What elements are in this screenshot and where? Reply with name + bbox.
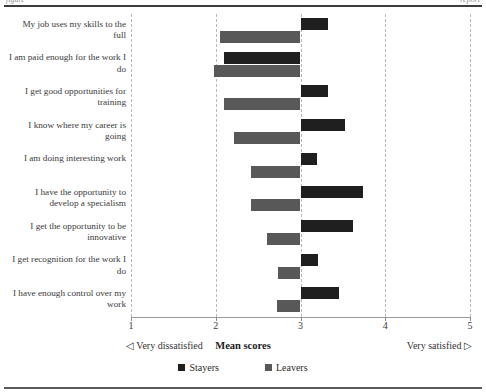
bar-leavers-2 [224, 98, 300, 110]
category-label: I get the opportunity to be innovative [8, 221, 126, 244]
axis-caption-row: ◁ Very dissatisfied Mean scores Very sat… [0, 340, 486, 354]
x-tick-label-4: 4 [383, 320, 388, 331]
bar-stayers-2 [301, 85, 328, 97]
bar-leavers-7 [278, 267, 301, 279]
chart-figure: figure report My job uses my skills to t… [0, 0, 486, 392]
gridline-2 [216, 14, 218, 317]
x-tick-label-1: 1 [129, 320, 134, 331]
square-swatch-icon [265, 364, 272, 371]
top-divider [4, 5, 482, 7]
gridline-4 [385, 14, 387, 317]
category-label: I get good opportunities for training [8, 86, 126, 109]
category-label: My job uses my skills to the full [8, 19, 126, 42]
category-label: I get recognition for the work I do [8, 254, 126, 277]
gridline-1 [131, 14, 133, 317]
x-tick-label-5: 5 [468, 320, 473, 331]
gridline-3 [301, 14, 303, 317]
bar-stayers-7 [301, 254, 319, 266]
bar-stayers-4 [301, 153, 318, 165]
bar-stayers-8 [301, 287, 339, 299]
bar-leavers-0 [220, 31, 301, 43]
x-tick-label-3: 3 [298, 320, 303, 331]
chart-legend: StayersLeavers [0, 362, 486, 373]
gridline-5 [470, 14, 472, 317]
category-label: I am paid enough for the work I do [8, 52, 126, 75]
bar-stayers-5 [301, 186, 364, 198]
category-label: I am doing interesting work [8, 153, 126, 165]
bar-leavers-8 [277, 300, 301, 312]
bar-leavers-3 [234, 132, 300, 144]
category-label: I know where my career is going [8, 120, 126, 143]
bar-stayers-1 [224, 52, 300, 64]
bar-leavers-4 [251, 166, 300, 178]
legend-label: Leavers [276, 362, 308, 373]
bar-leavers-5 [251, 199, 300, 211]
bar-stayers-0 [301, 18, 329, 30]
square-swatch-icon [178, 364, 185, 371]
bar-leavers-6 [267, 233, 301, 245]
legend-label: Stayers [189, 362, 218, 373]
caption-very-satisfied: Very satisfied ▷ [407, 340, 472, 351]
category-label: I have the opportunity to develop a spec… [8, 187, 126, 210]
artifact-left-text: figure [6, 0, 25, 4]
plot-area [131, 14, 470, 317]
bar-stayers-3 [301, 119, 346, 131]
legend-item-stayers: Stayers [178, 362, 218, 373]
category-label-column: My job uses my skills to the fullI am pa… [8, 14, 126, 317]
bar-stayers-6 [301, 220, 354, 232]
bar-leavers-1 [214, 65, 300, 77]
x-tick-label-2: 2 [213, 320, 218, 331]
bottom-divider [4, 387, 482, 389]
artifact-right-text: report [460, 0, 480, 4]
category-label: I have enough control over my work [8, 288, 126, 311]
legend-item-leavers: Leavers [265, 362, 308, 373]
